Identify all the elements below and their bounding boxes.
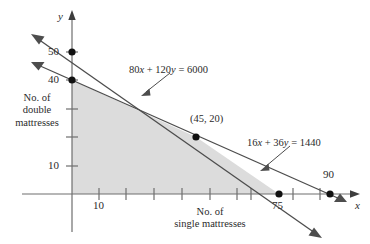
point-75-0	[275, 190, 282, 197]
x-axis-arrowhead	[350, 190, 360, 197]
point-0-40	[68, 76, 75, 83]
x-axis-caption: No. of single mattresses	[150, 206, 270, 231]
equation1-coefficient-x: 80	[129, 64, 140, 75]
x-tick-label-10: 10	[93, 199, 104, 212]
x-axis-symbol: x	[355, 199, 360, 212]
x-tick-label-90: 90	[323, 168, 334, 181]
equation2-operator: + 36	[262, 137, 284, 148]
point-90-0	[326, 190, 333, 197]
equation2-coefficient-x: 16	[247, 137, 258, 148]
x-axis-caption-line-2: single mattresses	[150, 218, 270, 230]
annotation-leader-line2	[260, 146, 290, 171]
y-axis-caption: No. of double mattresses	[6, 92, 68, 129]
y-axis-caption-line-2: double	[6, 104, 68, 116]
equation1-operator: + 120	[144, 64, 171, 75]
point-0-50	[68, 48, 75, 55]
y-axis-symbol: y	[58, 10, 63, 23]
y-axis-caption-line-1: No. of	[6, 92, 68, 104]
line2-upper-arrowhead	[31, 62, 45, 71]
y-axis-arrowhead	[68, 10, 75, 20]
equation-label-line2: 16x + 36y = 1440	[247, 137, 321, 149]
y-tick-label-40: 40	[48, 73, 59, 86]
y-tick-label-50: 50	[48, 45, 59, 58]
y-axis-caption-line-3: mattresses	[6, 117, 68, 129]
intersection-point-label: (45, 20)	[190, 113, 223, 125]
x-axis-caption-line-1: No. of	[150, 206, 270, 218]
point-45-20	[192, 133, 199, 140]
x-tick-label-75: 75	[272, 199, 283, 212]
annotation-leader-line1	[141, 73, 170, 96]
equation-label-line1: 80x + 120y = 6000	[129, 64, 208, 76]
equation2-constant: = 1440	[289, 137, 321, 148]
graph-figure: y x 50 40 10 10 75 90 No. of double matt…	[0, 0, 370, 244]
y-tick-label-10: 10	[48, 159, 59, 172]
equation1-constant: = 6000	[176, 64, 208, 75]
